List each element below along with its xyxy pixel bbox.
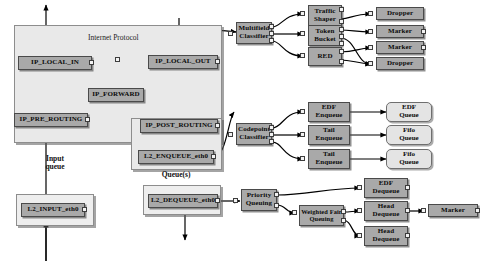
port-token-bucket-out-3[interactable] [339, 41, 344, 46]
port-marker-2-in[interactable] [368, 45, 373, 50]
port-dropper-2-in[interactable] [368, 61, 373, 66]
port-priority-out-1[interactable] [274, 192, 279, 197]
node-dropper-1[interactable]: Dropper [376, 7, 424, 20]
port-edf-enqueue-in[interactable] [300, 109, 305, 114]
input-queue-label: Input queue [26, 155, 84, 172]
node-dropper-2[interactable]: Dropper [376, 57, 424, 70]
port-token-bucket-out-1[interactable] [339, 27, 344, 32]
node-ip-pre-routing[interactable]: IP_PRE_ROUTING [14, 113, 88, 127]
port-multifield-classifier-in[interactable] [228, 31, 233, 36]
port-codepoint-classifier-in[interactable] [228, 132, 233, 137]
node-priority-queuing[interactable]: Priority Queuing [241, 189, 277, 211]
port-multifield-out-2[interactable] [269, 31, 274, 36]
port-l2-dequeue-out[interactable] [215, 198, 220, 203]
node-ip-local-out[interactable]: IP_LOCAL_OUT [148, 55, 218, 69]
node-tail-enqueue-2[interactable]: Tail Enqueue [308, 149, 350, 169]
node-edf-dequeue[interactable]: EDF Dequeue [364, 178, 408, 198]
node-traffic-shaper[interactable]: Traffic Shaper [308, 5, 342, 26]
port-ip-forward-top[interactable] [115, 57, 120, 62]
node-token-bucket[interactable]: Token Bucket [308, 25, 342, 46]
node-codepoint-classifier[interactable]: Codepoint Classifier [236, 123, 272, 145]
port-ip-pre-routing-out[interactable] [85, 117, 90, 122]
node-marker-1[interactable]: Marker [376, 25, 424, 38]
port-dropper-1-in[interactable] [368, 11, 373, 16]
node-marker-3[interactable]: Marker [428, 204, 478, 217]
port-traffic-shaper-out-2[interactable] [339, 19, 344, 24]
port-codepoint-out-2[interactable] [269, 132, 274, 137]
queues-label: Queue(s) [146, 171, 206, 179]
port-red-out-1[interactable] [339, 49, 344, 54]
port-priority-queuing-in[interactable] [233, 198, 238, 203]
port-codepoint-out-1[interactable] [269, 125, 274, 130]
port-l2-enqueue-out[interactable] [211, 154, 216, 159]
node-marker-2[interactable]: Marker [376, 41, 424, 54]
node-red[interactable]: RED [308, 47, 342, 66]
port-head-dequeue-1-in[interactable] [357, 208, 362, 213]
port-multifield-out-1[interactable] [269, 24, 274, 29]
port-ip-post-routing-out[interactable] [215, 123, 220, 128]
port-traffic-shaper-in[interactable] [300, 11, 305, 16]
port-l2-input-out[interactable] [82, 207, 87, 212]
port-red-out-2[interactable] [339, 59, 344, 64]
port-tail-enqueue-1-in[interactable] [300, 132, 305, 137]
node-l2-dequeue-eth0[interactable]: L2_DEQUEUE_eth0 [148, 194, 218, 208]
port-codepoint-out-3[interactable] [269, 139, 274, 144]
node-edf-queue[interactable]: EDF Queue [386, 102, 432, 122]
node-fifo-queue-1[interactable]: Fifo Queue [386, 125, 432, 145]
port-wfq-out-2[interactable] [341, 218, 346, 223]
node-ip-post-routing[interactable]: IP_POST_ROUTING [140, 119, 218, 133]
port-ip-local-in-out[interactable] [89, 60, 94, 65]
node-multifield-classifier[interactable]: Multifield Classifier [236, 22, 272, 44]
internet-protocol-label: Internet Protocol [88, 33, 139, 42]
port-marker-3-out[interactable] [475, 208, 480, 213]
port-tail-enqueue-2-in[interactable] [300, 156, 305, 161]
node-head-dequeue-1[interactable]: Head Dequeue [364, 201, 408, 221]
port-head-dequeue-2-in[interactable] [357, 233, 362, 238]
node-head-dequeue-2[interactable]: Head Dequeue [364, 226, 408, 246]
node-l2-enqueue-eth0[interactable]: L2_ENQUEUE_eth0 [138, 150, 214, 164]
node-ip-forward[interactable]: IP_FORWARD [88, 88, 144, 102]
port-head-dequeue-2-out[interactable] [405, 233, 410, 238]
node-tail-enqueue-1[interactable]: Tail Enqueue [308, 125, 350, 145]
port-edf-dequeue-in[interactable] [357, 185, 362, 190]
port-token-bucket-out-2[interactable] [339, 34, 344, 39]
port-multifield-out-3[interactable] [269, 38, 274, 43]
node-edf-enqueue[interactable]: EDF Enqueue [308, 102, 350, 122]
diagram-canvas: Internet Protocol Queue(s) Input queue I… [0, 0, 491, 262]
port-ip-local-out-out[interactable] [215, 59, 220, 64]
port-head-dequeue-1-out[interactable] [405, 208, 410, 213]
node-ip-local-in[interactable]: IP_LOCAL_IN [18, 56, 92, 70]
port-traffic-shaper-out-1[interactable] [339, 7, 344, 12]
port-token-bucket-in[interactable] [300, 31, 305, 36]
port-marker-2-out[interactable] [421, 45, 426, 50]
node-weighted-fair-queuing[interactable]: Weighted Fair Queuing [299, 205, 344, 226]
port-marker-3-in[interactable] [421, 208, 426, 213]
port-red-in[interactable] [300, 53, 305, 58]
node-l2-input-eth0[interactable]: L2_INPUT_eth0 [21, 203, 85, 217]
port-marker-1-in[interactable] [368, 29, 373, 34]
port-priority-out-2[interactable] [274, 203, 279, 208]
node-fifo-queue-2[interactable]: Fifo Queue [386, 149, 432, 169]
port-edf-dequeue-out[interactable] [405, 185, 410, 190]
port-wfq-in[interactable] [292, 210, 297, 215]
port-wfq-out-1[interactable] [341, 209, 346, 214]
port-marker-1-out[interactable] [421, 29, 426, 34]
